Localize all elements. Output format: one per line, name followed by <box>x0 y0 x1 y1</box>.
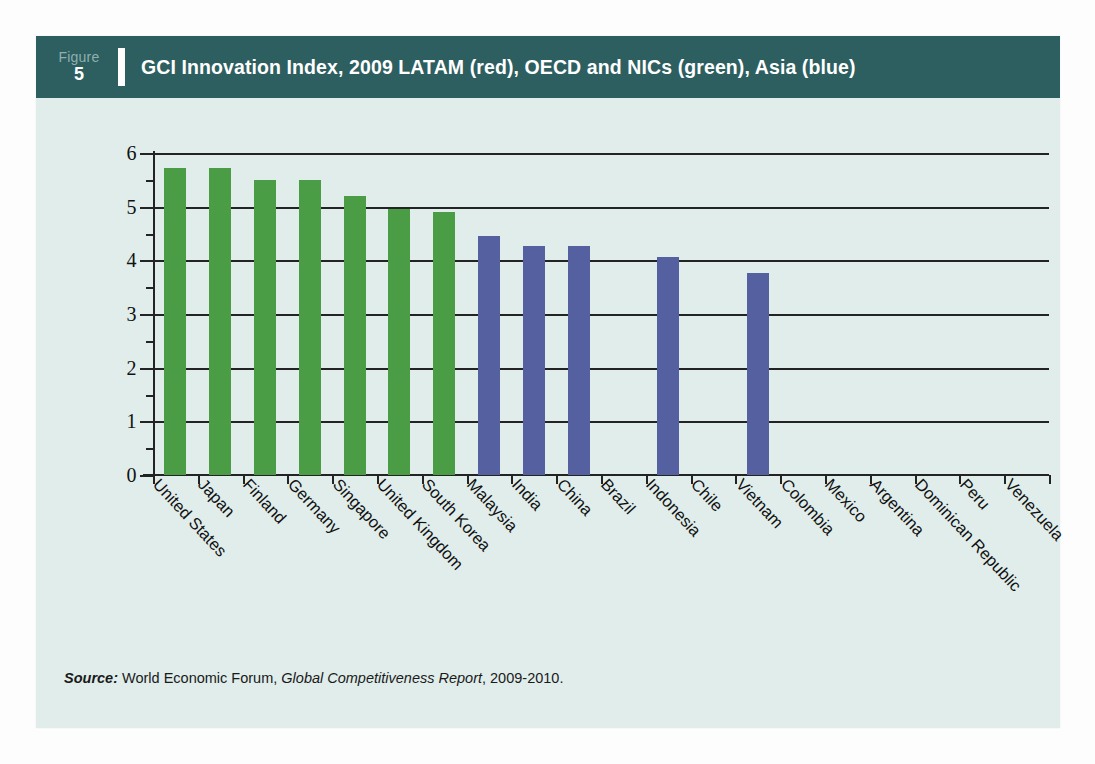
x-axis-label-japan: Japan <box>194 475 239 521</box>
bar[interactable] <box>433 212 455 475</box>
bar[interactable] <box>299 180 321 475</box>
x-axis-label-india: India <box>508 475 546 514</box>
bar[interactable] <box>836 280 858 475</box>
figure-tag-number: 5 <box>42 65 116 84</box>
bar[interactable] <box>568 246 590 475</box>
bar[interactable] <box>478 236 500 475</box>
y-tick-minor <box>146 180 153 182</box>
bar[interactable] <box>792 275 814 475</box>
x-axis-label-finland: Finland <box>239 475 290 528</box>
x-axis-label-china: China <box>553 475 596 519</box>
bar[interactable] <box>657 257 679 475</box>
x-axis-label-vietnam: Vietnam <box>732 475 787 532</box>
bar[interactable] <box>164 168 186 475</box>
y-axis-label-6: 6 <box>127 142 138 165</box>
bar[interactable] <box>971 289 993 475</box>
header-divider <box>118 48 125 86</box>
y-axis-label-0: 0 <box>127 464 138 487</box>
source-label: Source: <box>64 670 118 686</box>
y-axis-label-4: 4 <box>127 249 138 272</box>
figure-page: Figure 5 GCI Innovation Index, 2009 LATA… <box>0 0 1095 764</box>
y-tick-minor <box>146 448 153 450</box>
source-report-title: Global Competitiveness Report <box>281 670 482 686</box>
x-axis-label-peru: Peru <box>956 475 994 513</box>
bar[interactable] <box>747 273 769 475</box>
x-axis-category-labels: United StatesJapanFinlandGermanySingapor… <box>153 475 1093 645</box>
y-tick-6 <box>140 153 153 155</box>
bar-series <box>153 153 1049 475</box>
bar[interactable] <box>209 168 231 475</box>
bar[interactable] <box>1016 323 1038 475</box>
figure-card: Figure 5 GCI Innovation Index, 2009 LATA… <box>36 36 1060 728</box>
y-tick-2 <box>140 368 153 370</box>
source-publisher: World Economic Forum, <box>118 670 281 686</box>
bar[interactable] <box>612 253 634 475</box>
figure-tag: Figure 5 <box>36 50 116 85</box>
y-tick-minor <box>146 395 153 397</box>
bar[interactable] <box>254 180 276 475</box>
bar[interactable] <box>881 286 903 475</box>
bar[interactable] <box>926 288 948 475</box>
y-axis-label-1: 1 <box>127 410 138 433</box>
y-tick-minor <box>146 287 153 289</box>
y-tick-minor <box>146 341 153 343</box>
y-tick-minor <box>146 234 153 236</box>
bar[interactable] <box>702 258 724 475</box>
figure-title: GCI Innovation Index, 2009 LATAM (red), … <box>141 56 856 79</box>
figure-body: 0123456 United StatesJapanFinlandGermany… <box>36 98 1060 728</box>
x-axis-label-chile: Chile <box>687 475 727 515</box>
source-note: Source: World Economic Forum, Global Com… <box>64 670 563 686</box>
x-axis-label-venezuela: Venezuela <box>1001 475 1067 544</box>
chart-plot-area: 0123456 <box>153 153 1049 475</box>
bar[interactable] <box>523 246 545 475</box>
y-tick-3 <box>140 314 153 316</box>
y-axis-label-5: 5 <box>127 195 138 218</box>
source-years: , 2009-2010. <box>482 670 563 686</box>
bar[interactable] <box>344 196 366 475</box>
y-tick-4 <box>140 260 153 262</box>
y-axis-label-2: 2 <box>127 356 138 379</box>
y-tick-5 <box>140 207 153 209</box>
y-axis-label-3: 3 <box>127 303 138 326</box>
figure-header: Figure 5 GCI Innovation Index, 2009 LATA… <box>36 36 1060 98</box>
y-tick-1 <box>140 421 153 423</box>
y-tick-0 <box>140 475 153 477</box>
bar[interactable] <box>388 209 410 475</box>
x-axis-label-brazil: Brazil <box>597 475 639 518</box>
figure-tag-word: Figure <box>42 50 116 65</box>
